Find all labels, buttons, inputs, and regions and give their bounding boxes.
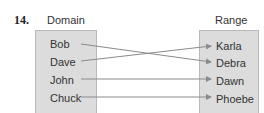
arrow-dave-karla bbox=[81, 46, 211, 61]
mapping-arrows bbox=[0, 0, 264, 113]
